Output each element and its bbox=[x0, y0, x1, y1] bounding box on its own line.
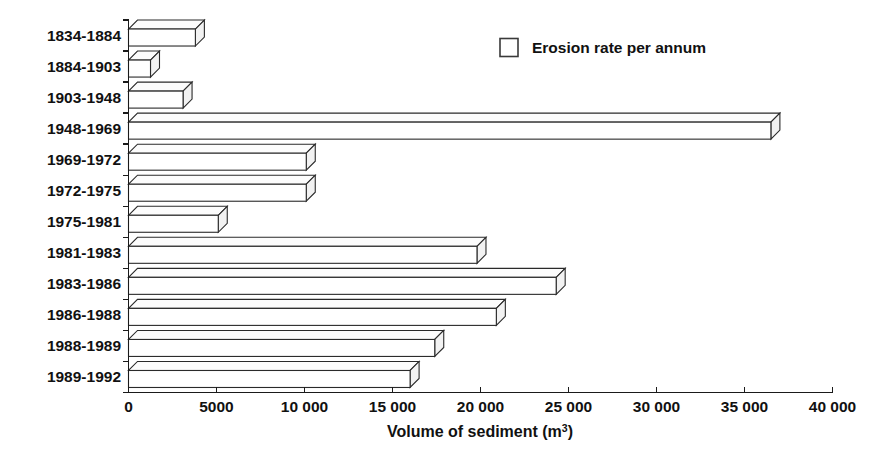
bar-top-face bbox=[129, 206, 228, 215]
x-axis-tick-label: 10 000 bbox=[281, 398, 328, 415]
bar-front-face bbox=[129, 29, 196, 46]
x-axis-tick-label: 15 000 bbox=[369, 398, 416, 415]
legend: Erosion rate per annum bbox=[500, 39, 706, 57]
chart-canvas: 1834-18841884-19031903-19481948-19691969… bbox=[0, 0, 893, 461]
bar-3d bbox=[129, 268, 566, 294]
x-axis-tick-labels: 0500010 00015 00020 00025 00030 00035 00… bbox=[124, 398, 856, 415]
bar-front-face bbox=[129, 153, 307, 170]
bar-top-face bbox=[129, 113, 780, 122]
bar-3d bbox=[129, 144, 316, 170]
y-axis-category-label: 1884-1903 bbox=[47, 58, 122, 75]
y-axis-category-label: 1988-1989 bbox=[47, 337, 122, 354]
x-axis-tick-label: 35 000 bbox=[721, 398, 768, 415]
bar-front-face bbox=[129, 277, 557, 294]
x-axis-tick-label: 40 000 bbox=[809, 398, 856, 415]
y-axis-category-labels: 1834-18841884-19031903-19481948-19691969… bbox=[47, 27, 122, 385]
bar-front-face bbox=[129, 246, 477, 263]
x-axis-tick-label: 0 bbox=[124, 398, 133, 415]
bar-front-face bbox=[129, 91, 184, 108]
bar-front-face bbox=[129, 122, 771, 139]
bar-3d bbox=[129, 299, 506, 325]
y-axis-category-label: 1972-1975 bbox=[47, 182, 122, 199]
legend-label: Erosion rate per annum bbox=[532, 39, 706, 56]
x-axis-tick-label: 20 000 bbox=[457, 398, 504, 415]
y-axis-category-label: 1989-1992 bbox=[47, 368, 121, 385]
bar-top-face bbox=[129, 330, 444, 339]
x-axis-title-base: Volume of sediment (m bbox=[387, 423, 562, 440]
bar-front-face bbox=[129, 184, 307, 201]
erosion-rate-bar-chart: 1834-18841884-19031903-19481948-19691969… bbox=[0, 0, 893, 461]
y-axis-category-label: 1975-1981 bbox=[47, 213, 122, 230]
bar-3d bbox=[129, 330, 444, 356]
bar-front-face bbox=[129, 308, 497, 325]
y-axis-category-label: 1948-1969 bbox=[47, 120, 122, 137]
bar-3d bbox=[129, 175, 316, 201]
bar-top-face bbox=[129, 144, 316, 153]
bar-front-face bbox=[129, 215, 219, 232]
bar-3d bbox=[129, 361, 420, 387]
bar-3d bbox=[129, 20, 205, 46]
x-axis-title: Volume of sediment (m3) bbox=[387, 422, 573, 440]
bar-top-face bbox=[129, 361, 420, 370]
y-axis-category-label: 1986-1988 bbox=[47, 306, 122, 323]
x-axis-tick-label: 30 000 bbox=[633, 398, 680, 415]
bar-3d bbox=[129, 51, 160, 77]
bar-top-face bbox=[129, 20, 205, 29]
bar-front-face bbox=[129, 370, 411, 387]
bar-top-face bbox=[129, 175, 316, 184]
bar-top-face bbox=[129, 268, 566, 277]
bar-front-face bbox=[129, 339, 435, 356]
bar-3d bbox=[129, 237, 486, 263]
y-axis-category-label: 1969-1972 bbox=[47, 151, 121, 168]
bar-front-face bbox=[129, 60, 151, 77]
y-axis-category-label: 1981-1983 bbox=[47, 244, 122, 261]
bar-top-face bbox=[129, 82, 193, 91]
bar-3d bbox=[129, 206, 228, 232]
bar-3d bbox=[129, 113, 780, 139]
x-axis-tick-label: 25 000 bbox=[545, 398, 592, 415]
y-axis-category-label: 1903-1948 bbox=[47, 89, 122, 106]
bar-top-face bbox=[129, 299, 506, 308]
y-axis-category-label: 1834-1884 bbox=[47, 27, 122, 44]
bar-3d bbox=[129, 82, 193, 108]
x-axis-title-close: ) bbox=[568, 423, 573, 440]
y-axis-tick-marks bbox=[123, 20, 129, 393]
legend-swatch-icon bbox=[500, 39, 518, 57]
bar-top-face bbox=[129, 237, 486, 246]
y-axis-category-label: 1983-1986 bbox=[47, 275, 122, 292]
x-axis-tick-label: 5000 bbox=[199, 398, 233, 415]
bar-series-erosion-rate bbox=[129, 20, 780, 387]
